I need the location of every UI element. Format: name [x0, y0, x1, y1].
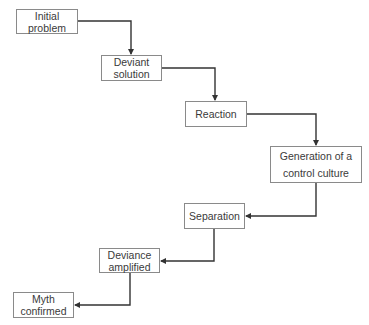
edge-deviant-solution-to-reaction: [162, 68, 215, 100]
node-separation: Separation: [184, 203, 245, 229]
node-myth-confirmed: Myth confirmed: [13, 292, 74, 318]
edge-initial-to-deviant-solution: [78, 21, 131, 54]
edge-separation-to-deviance-amplified: [161, 229, 214, 261]
edge-deviance-amplified-to-myth-confirmed: [75, 273, 130, 305]
node-initial-problem: Initial problem: [16, 9, 78, 34]
node-generation-of-control-culture: Generation of a control culture: [270, 146, 362, 183]
node-deviance-amplified: Deviance amplified: [99, 248, 160, 273]
node-reaction: Reaction: [185, 101, 247, 127]
node-deviant-solution: Deviant solution: [101, 55, 162, 81]
edge-generation-to-separation: [246, 183, 316, 216]
edge-reaction-to-generation: [247, 114, 316, 145]
